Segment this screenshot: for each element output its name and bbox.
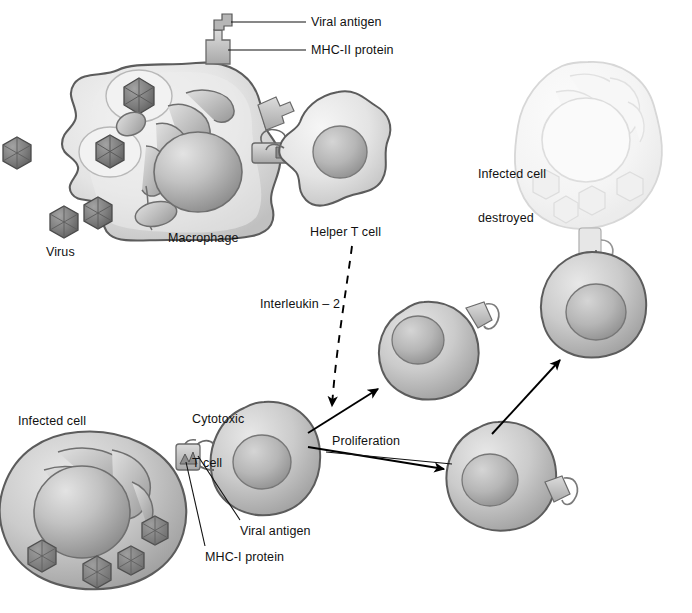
attacking-t-cell [541, 252, 646, 358]
label-proliferation: Proliferation [332, 434, 400, 449]
mhc2-antigen-complex-top [206, 14, 232, 64]
label-infected-cell-destroyed: Infected cell destroyed [478, 138, 546, 254]
label-infected-cell-destroyed-line1: Infected cell [478, 167, 546, 182]
proliferation-arrow-lower [308, 447, 444, 469]
label-helper-t-cell: Helper T cell [310, 225, 381, 240]
label-infected-cell-destroyed-line2: destroyed [478, 211, 546, 226]
label-mhc2-protein: MHC-II protein [311, 43, 394, 58]
label-interleukin-2: Interleukin – 2 [260, 297, 340, 312]
label-infected-cell: Infected cell [18, 414, 86, 429]
kill-arrow [492, 360, 560, 434]
proliferated-t-cell-lower [446, 422, 577, 531]
label-macrophage: Macrophage [168, 231, 239, 246]
attacking-t-cell-nucleus [566, 284, 626, 340]
virus-particle [50, 206, 78, 238]
label-viral-antigen-top: Viral antigen [311, 15, 382, 30]
proliferation-arrow-upper [308, 389, 378, 433]
label-viral-antigen-bottom: Viral antigen [240, 524, 311, 539]
virus-particle [3, 137, 31, 169]
diagram-canvas [0, 0, 692, 613]
label-cytotoxic-t-cell: Cytotoxic T cell [192, 383, 244, 499]
destroyed-cell-nucleus [542, 98, 630, 182]
immunity-diagram-figure: Viral antigen MHC-II protein Macrophage … [0, 0, 692, 613]
leader-proliferation-cell [326, 452, 452, 464]
label-virus: Virus [46, 245, 75, 260]
proliferated-t-cell-upper [379, 302, 499, 400]
helper-t-cell-nucleus [313, 126, 367, 178]
label-cytotoxic-line2: T cell [192, 456, 244, 471]
proliferated-lower-nucleus [462, 454, 518, 506]
infected-cell [0, 431, 200, 589]
macrophage-cell [62, 14, 298, 241]
macrophage-nucleus [154, 132, 242, 212]
label-cytotoxic-line1: Cytotoxic [192, 412, 244, 427]
interleukin-2-arrow [332, 246, 352, 406]
label-mhc1-protein: MHC-I protein [205, 550, 284, 565]
proliferated-upper-nucleus [392, 316, 444, 364]
